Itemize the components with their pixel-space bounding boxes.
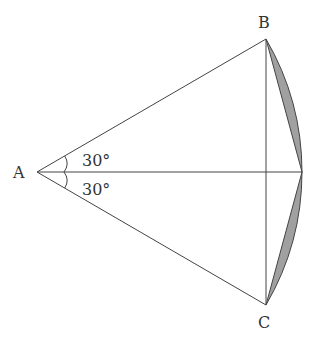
angle-arc-lower <box>64 172 67 188</box>
angle-label-upper: 30° <box>82 151 110 170</box>
point-label-B: B <box>258 13 270 32</box>
point-label-A: A <box>12 163 25 182</box>
angle-arc-upper <box>64 156 67 172</box>
shaded-segment-lower <box>266 172 302 305</box>
segment-AC <box>37 172 266 305</box>
segment-AB <box>37 39 266 172</box>
point-label-C: C <box>258 313 270 332</box>
sector-diagram: A B C 30° 30° <box>0 0 312 339</box>
angle-label-lower: 30° <box>82 180 110 199</box>
shaded-segment-upper <box>266 39 302 172</box>
